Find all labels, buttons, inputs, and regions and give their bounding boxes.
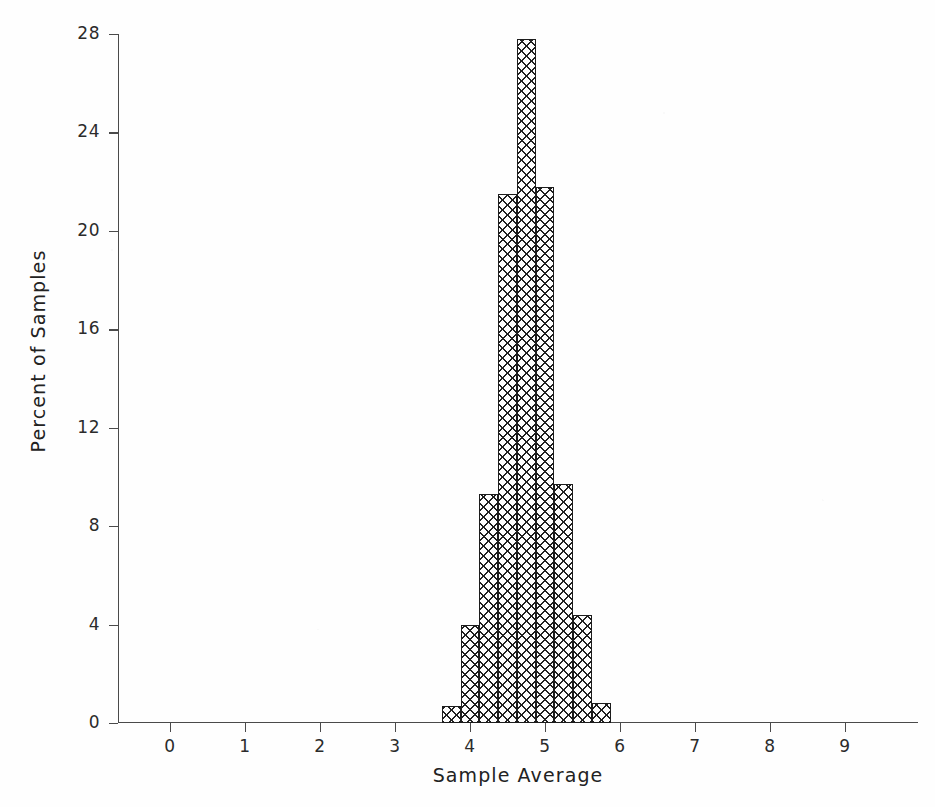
x-tick-label: 8 bbox=[750, 736, 790, 756]
y-tick-label: 4 bbox=[30, 614, 100, 634]
histogram-figure: 0481216202428 0123456789 Percent of Samp… bbox=[0, 0, 935, 807]
y-tick-label: 0 bbox=[30, 712, 100, 732]
x-tick-mark bbox=[395, 723, 396, 732]
y-axis-line bbox=[118, 34, 119, 723]
x-tick-mark bbox=[320, 723, 321, 732]
y-tick-mark bbox=[109, 231, 118, 232]
x-tick-label: 6 bbox=[600, 736, 640, 756]
histogram-bar bbox=[498, 194, 517, 723]
histogram-bar bbox=[592, 703, 611, 723]
x-tick-label: 0 bbox=[150, 736, 190, 756]
plot-area: 0481216202428 0123456789 Percent of Samp… bbox=[0, 0, 935, 807]
histogram-bar bbox=[461, 625, 480, 723]
x-tick-label: 3 bbox=[375, 736, 415, 756]
x-tick-label: 5 bbox=[525, 736, 565, 756]
x-tick-mark bbox=[545, 723, 546, 732]
x-tick-mark bbox=[695, 723, 696, 732]
y-tick-label: 24 bbox=[30, 121, 100, 141]
y-tick-mark bbox=[109, 526, 118, 527]
y-tick-label: 28 bbox=[30, 23, 100, 43]
y-axis-label: Percent of Samples bbox=[27, 171, 49, 531]
histogram-bar bbox=[517, 39, 536, 723]
histogram-bar bbox=[573, 615, 592, 723]
x-tick-label: 2 bbox=[300, 736, 340, 756]
y-tick-mark bbox=[109, 428, 118, 429]
x-axis-label: Sample Average bbox=[118, 764, 918, 786]
x-tick-mark bbox=[620, 723, 621, 732]
x-tick-label: 1 bbox=[225, 736, 265, 756]
x-tick-mark bbox=[770, 723, 771, 732]
y-tick-mark bbox=[109, 34, 118, 35]
histogram-bar bbox=[536, 187, 555, 723]
x-tick-label: 7 bbox=[675, 736, 715, 756]
x-tick-mark bbox=[245, 723, 246, 732]
histogram-bar bbox=[554, 484, 573, 723]
y-tick-mark bbox=[109, 723, 118, 724]
x-tick-mark bbox=[470, 723, 471, 732]
x-tick-label: 4 bbox=[450, 736, 490, 756]
histogram-bar bbox=[442, 706, 461, 723]
x-tick-mark bbox=[845, 723, 846, 732]
y-tick-mark bbox=[109, 132, 118, 133]
y-tick-mark bbox=[109, 329, 118, 330]
y-tick-mark bbox=[109, 625, 118, 626]
x-tick-label: 9 bbox=[825, 736, 865, 756]
x-tick-mark bbox=[170, 723, 171, 732]
histogram-bar bbox=[479, 494, 498, 723]
